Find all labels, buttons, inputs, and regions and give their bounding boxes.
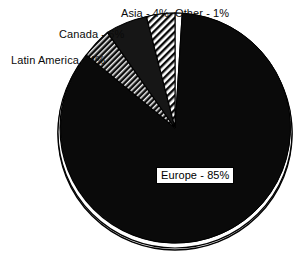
slice-label-other: Other - 1% (175, 7, 229, 20)
pie-chart-canvas (0, 0, 300, 272)
pie-chart: Latin America - 4% Canada - 6% Asia - 4%… (0, 0, 300, 272)
slice-label-asia: Asia - 4% (121, 7, 169, 20)
slice-label-europe: Europe - 85% (156, 167, 234, 184)
slice-label-canada: Canada - 6% (59, 28, 124, 41)
slice-label-latin-america: Latin America - 4% (11, 54, 105, 67)
